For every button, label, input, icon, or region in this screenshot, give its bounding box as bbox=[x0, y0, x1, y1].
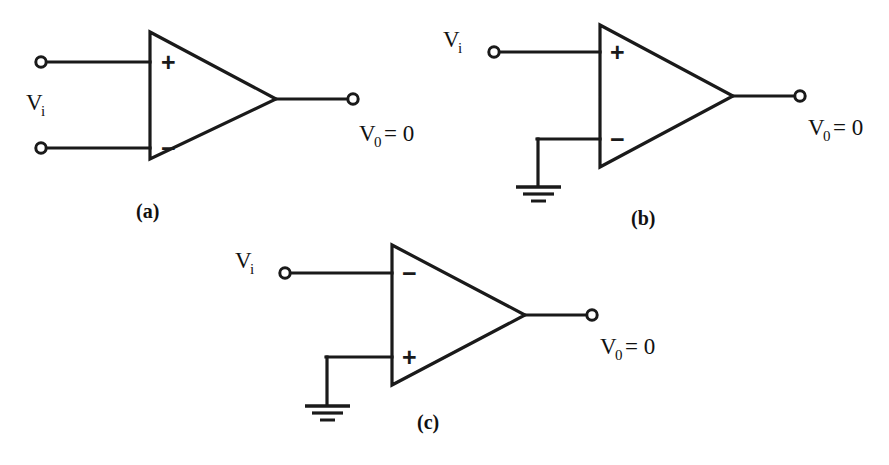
output-voltage-equation-a: = 0 bbox=[384, 121, 414, 146]
output-voltage-equation-b: = 0 bbox=[833, 115, 863, 140]
input-terminal-a-bottom[interactable] bbox=[36, 143, 46, 153]
output-voltage-subscript-a: 0 bbox=[374, 134, 382, 150]
input-voltage-subscript-c: i bbox=[250, 261, 254, 277]
input-sign-c-top: − bbox=[402, 259, 417, 287]
input-terminal-a-top[interactable] bbox=[36, 57, 46, 67]
input-terminal-c[interactable] bbox=[280, 268, 290, 278]
output-voltage-equation-c: = 0 bbox=[625, 334, 655, 359]
output-voltage-subscript-c: 0 bbox=[615, 347, 623, 363]
input-terminal-b[interactable] bbox=[489, 47, 499, 57]
output-terminal-b[interactable] bbox=[795, 91, 805, 101]
input-voltage-subscript-a: i bbox=[41, 103, 45, 119]
input-sign-b-bottom: − bbox=[610, 125, 625, 153]
opamp-circuit-a: + − V i V 0 = 0 (a) bbox=[26, 32, 414, 223]
figure-root: + − V i V 0 = 0 (a) bbox=[0, 0, 889, 465]
opamp-circuit-c: − + V i V 0 = 0 (c) bbox=[235, 245, 655, 434]
input-sign-a-top: + bbox=[161, 48, 176, 76]
opamp-circuit-b: + − V i V 0 = 0 (b) bbox=[443, 25, 863, 230]
input-sign-b-top: + bbox=[610, 38, 625, 66]
panel-caption-c: (c) bbox=[417, 411, 439, 434]
input-sign-a-bottom: − bbox=[161, 134, 176, 162]
panel-caption-a: (a) bbox=[136, 200, 159, 223]
panel-caption-b: (b) bbox=[631, 207, 655, 230]
output-voltage-subscript-b: 0 bbox=[823, 128, 831, 144]
output-terminal-c[interactable] bbox=[587, 310, 597, 320]
input-voltage-subscript-b: i bbox=[458, 40, 462, 56]
output-terminal-a[interactable] bbox=[348, 94, 358, 104]
circuit-diagram-canvas: + − V i V 0 = 0 (a) bbox=[0, 0, 889, 465]
input-sign-c-bottom: + bbox=[402, 343, 417, 371]
